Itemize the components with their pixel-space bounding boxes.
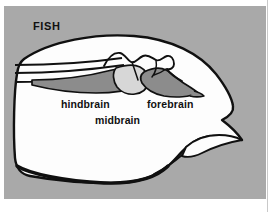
page-margin-right	[268, 0, 274, 212]
page-margin-left	[0, 0, 4, 212]
fish-head-outline	[14, 35, 242, 183]
label-hindbrain: hindbrain	[61, 98, 110, 110]
label-midbrain: midbrain	[95, 114, 140, 126]
figure-title: FISH	[33, 20, 60, 32]
page-divider-rule	[267, 0, 268, 212]
fish-head-illustration	[4, 6, 266, 199]
page-margin-top	[0, 0, 274, 6]
label-forebrain: forebrain	[147, 98, 193, 110]
page-margin-bottom	[0, 199, 274, 212]
figure-root: FISH hindbrain forebrain midbrain	[0, 0, 274, 212]
